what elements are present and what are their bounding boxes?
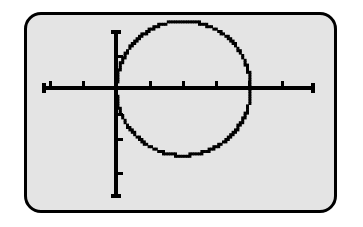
calculator-screenshot (0, 0, 363, 227)
calculator-screen-bezel (24, 12, 337, 213)
